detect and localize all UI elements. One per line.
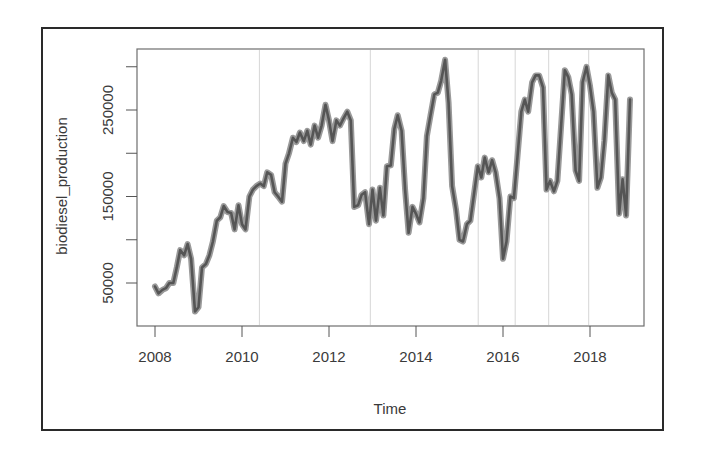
x-axis: 200820102012201420162018 xyxy=(138,326,606,365)
data-series-biodiesel-production xyxy=(155,60,630,312)
x-axis-title: Time xyxy=(374,400,407,417)
y-tick-label: 150000 xyxy=(99,171,116,221)
x-tick-label: 2010 xyxy=(225,348,258,365)
y-axis: 50000150000250000 xyxy=(99,67,137,304)
y-tick-label: 250000 xyxy=(99,85,116,135)
x-tick-label: 2018 xyxy=(573,348,606,365)
x-tick-label: 2016 xyxy=(486,348,519,365)
y-axis-title: biodiesel_production xyxy=(53,117,70,255)
y-tick-label: 50000 xyxy=(99,262,116,304)
time-series-chart: 50000150000250000 2008201020122014201620… xyxy=(0,0,701,459)
series-line-halo xyxy=(155,60,630,312)
x-tick-label: 2014 xyxy=(399,348,432,365)
x-tick-label: 2008 xyxy=(138,348,171,365)
x-tick-label: 2012 xyxy=(312,348,345,365)
